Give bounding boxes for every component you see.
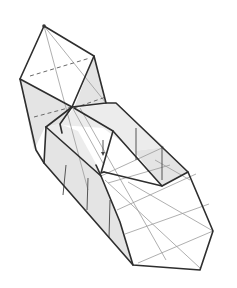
- vertex-dot: [42, 24, 46, 28]
- folded-polyhedron-diagram: [0, 0, 237, 288]
- arrow-head: [101, 152, 105, 156]
